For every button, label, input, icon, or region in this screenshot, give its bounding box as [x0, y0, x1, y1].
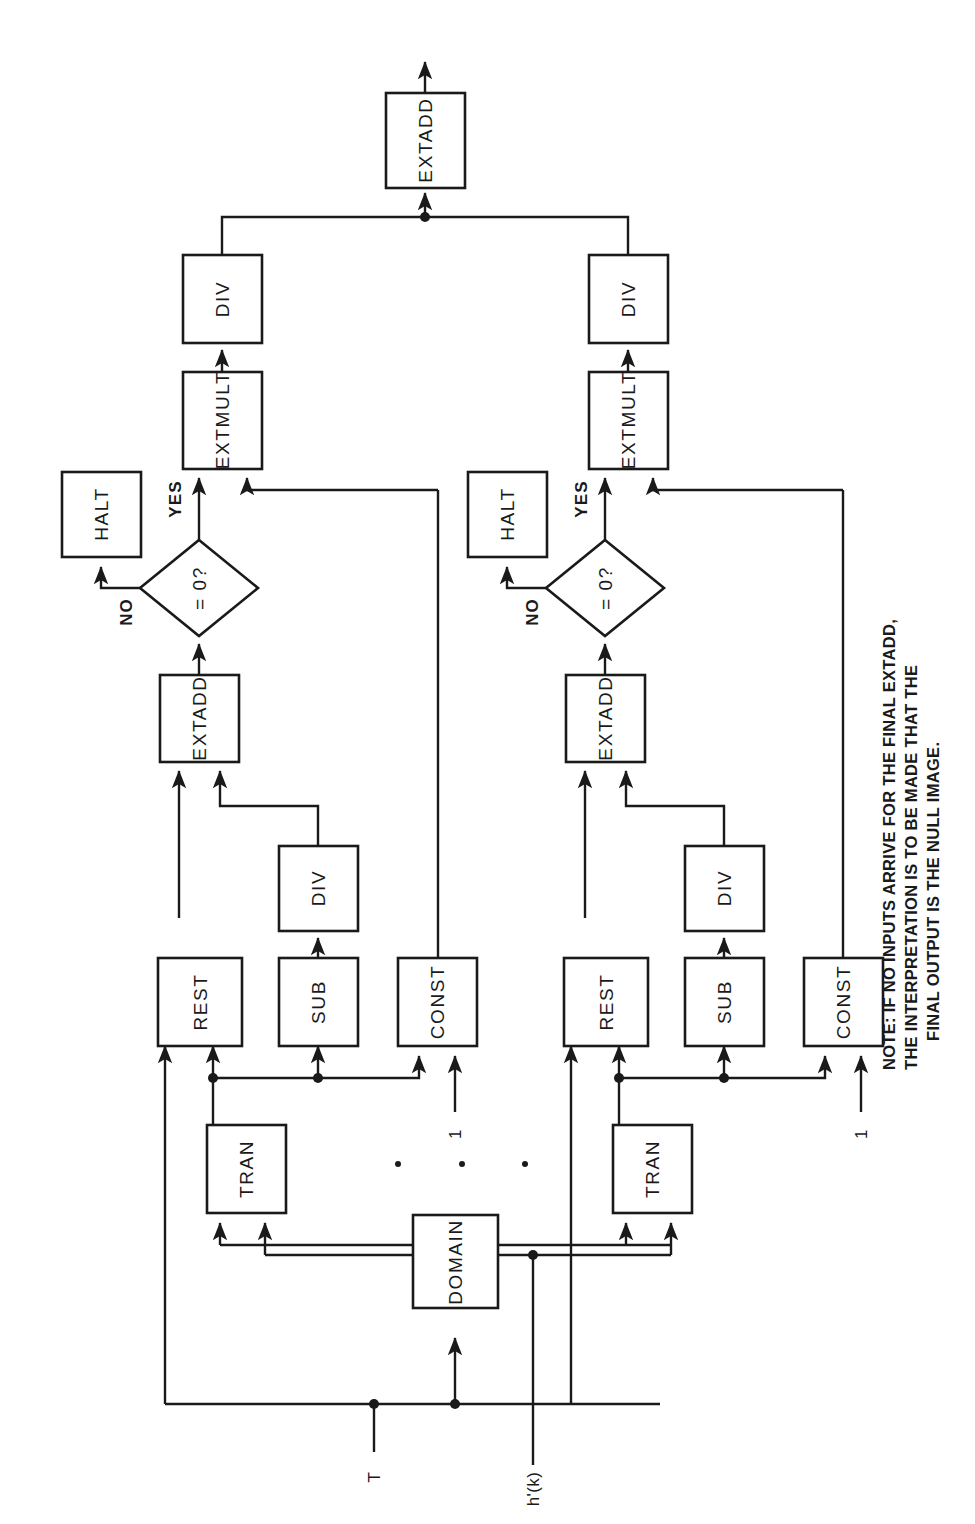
node-left-decision[interactable]: = 0? — [140, 540, 258, 636]
edge-left-const-to-extmult — [247, 478, 438, 490]
node-left-div2[interactable]: DIV — [279, 846, 358, 931]
node-left-decision-label: = 0? — [189, 566, 210, 610]
node-right-const[interactable]: CONST — [804, 958, 883, 1046]
node-left-extadd-label: EXTADD — [189, 675, 210, 760]
edge-right-tran-inputs — [626, 1223, 671, 1255]
node-final-extadd-label: EXTADD — [415, 97, 436, 182]
edge-label-left-no: NO — [117, 598, 136, 626]
note-line-2: THE INTERPRETATION IS TO BE MADE THAT TH… — [902, 665, 920, 1070]
edge-right-div2-to-extadd — [626, 771, 724, 846]
node-right-decision[interactable]: = 0? — [546, 540, 664, 636]
note-line-3: FINAL OUTPUT IS THE NULL IMAGE. — [924, 742, 942, 1041]
node-domain[interactable]: DOMAIN — [413, 1215, 498, 1308]
node-left-rest[interactable]: REST — [158, 958, 242, 1046]
node-left-extmult[interactable]: EXTMULT — [183, 371, 262, 469]
node-right-div2-label: DIV — [714, 870, 735, 906]
node-right-extmult-label: EXTMULT — [618, 371, 639, 469]
left-tran-bus — [208, 1046, 419, 1125]
t-bus: T — [165, 1338, 660, 1482]
node-right-extadd-label: EXTADD — [595, 675, 616, 760]
node-left-const[interactable]: CONST — [398, 958, 477, 1046]
node-right-tran-label: TRAN — [642, 1140, 663, 1198]
edge-label-right-yes: YES — [572, 480, 591, 517]
node-domain-label: DOMAIN — [445, 1219, 466, 1305]
node-left-tran-label: TRAN — [236, 1140, 257, 1198]
node-left-extadd[interactable]: EXTADD — [160, 675, 239, 762]
node-right-sub-label: SUB — [714, 980, 735, 1024]
node-right-sub[interactable]: SUB — [685, 958, 764, 1046]
note-block: NOTE: IF NO INPUTS ARRIVE FOR THE FINAL … — [880, 619, 942, 1070]
node-right-rest-label: REST — [596, 973, 617, 1030]
node-left-sub-label: SUB — [308, 980, 329, 1024]
node-right-halt[interactable]: HALT — [468, 472, 547, 557]
input-label-right-const-one: 1 — [852, 1129, 871, 1139]
node-right-extadd[interactable]: EXTADD — [566, 675, 645, 762]
node-left-tran[interactable]: TRAN — [207, 1125, 286, 1213]
node-left-extmult-label: EXTMULT — [212, 371, 233, 469]
node-right-div[interactable]: DIV — [589, 255, 668, 343]
node-left-rest-label: REST — [190, 973, 211, 1030]
edge-right-const-to-extmult — [653, 478, 843, 490]
node-left-const-label: CONST — [427, 965, 448, 1040]
node-right-extmult[interactable]: EXTMULT — [589, 371, 668, 469]
node-right-tran[interactable]: TRAN — [613, 1125, 692, 1213]
node-right-div2[interactable]: DIV — [685, 846, 764, 931]
note-line-1: NOTE: IF NO INPUTS ARRIVE FOR THE FINAL … — [880, 619, 898, 1070]
node-left-div2-label: DIV — [308, 870, 329, 906]
right-tran-bus — [614, 1046, 825, 1125]
node-left-halt[interactable]: HALT — [62, 472, 141, 557]
node-right-const-label: CONST — [833, 965, 854, 1040]
input-label-left-const-one: 1 — [446, 1129, 465, 1139]
node-right-rest[interactable]: REST — [564, 958, 648, 1046]
input-right-const-one: 1 — [852, 1056, 871, 1139]
node-left-div[interactable]: DIV — [183, 255, 262, 343]
edge-left-div2-to-extadd — [220, 771, 318, 846]
flowchart-canvas: EXTADD DIV EXTMULT YE — [0, 0, 975, 1524]
input-left-const-one: 1 — [446, 1056, 465, 1139]
node-right-halt-label: HALT — [497, 487, 518, 541]
node-left-halt-label: HALT — [91, 487, 112, 541]
node-left-div-label: DIV — [212, 281, 233, 317]
node-right-decision-label: = 0? — [595, 566, 616, 610]
node-final-extadd[interactable]: EXTADD — [386, 93, 465, 188]
top-bus — [222, 212, 628, 255]
edge-left-yes: YES — [166, 478, 200, 540]
edge-label-right-no: NO — [523, 598, 542, 626]
ellipsis-dots — [395, 1161, 528, 1167]
diagram-page: EXTADD DIV EXTMULT YE — [0, 0, 975, 1524]
input-label-t: T — [365, 1472, 384, 1483]
edge-right-yes: YES — [572, 478, 606, 540]
edge-left-tran-inputs — [220, 1223, 265, 1255]
input-label-hk: h'(k) — [524, 1472, 543, 1507]
edge-label-left-yes: YES — [166, 480, 185, 517]
node-left-sub[interactable]: SUB — [279, 958, 358, 1046]
node-right-div-label: DIV — [618, 281, 639, 317]
